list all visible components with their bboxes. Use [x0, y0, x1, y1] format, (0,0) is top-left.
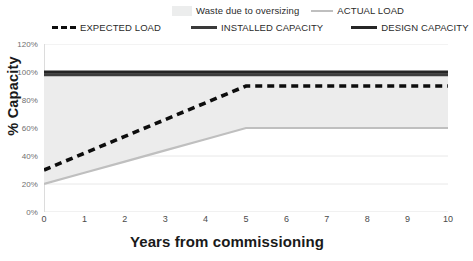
legend-label-actual-load: ACTUAL LOAD: [337, 6, 404, 16]
y-axis-tick-label: 0%: [26, 208, 38, 217]
solid-line-swatch-icon-installed: [191, 26, 217, 29]
legend-item-expected-load[interactable]: EXPECTED LOAD: [52, 23, 161, 33]
legend-label-design-capacity: DESIGN CAPACITY: [381, 23, 468, 33]
legend-label-installed-capacity: INSTALLED CAPACITY: [221, 23, 323, 33]
area-swatch-icon: [172, 6, 192, 16]
legend-item-actual-load[interactable]: ACTUAL LOAD: [311, 6, 404, 16]
y-axis-tick-labels: 120%100%80%60%40%20%0%: [0, 44, 42, 212]
x-axis-tick-label: 6: [284, 214, 289, 224]
chart-legend: Waste due to oversizing ACTUAL LOAD EXPE…: [0, 0, 454, 38]
x-axis-tick-label: 4: [203, 214, 208, 224]
legend-row-top: Waste due to oversizing ACTUAL LOAD: [0, 2, 473, 19]
x-axis-tick-label: 3: [163, 214, 168, 224]
x-axis-tick-label: 8: [365, 214, 370, 224]
plot-area: [44, 44, 448, 212]
x-axis-tick-label: 1: [82, 214, 87, 224]
solid-line-swatch-icon-design: [351, 26, 377, 29]
y-axis-tick-label: 80%: [22, 96, 38, 105]
y-axis-tick-label: 60%: [22, 124, 38, 133]
plot-svg: [44, 44, 448, 212]
x-axis-tick-label: 5: [243, 214, 248, 224]
y-axis-tick-label: 100%: [17, 68, 38, 77]
legend-label-expected-load: EXPECTED LOAD: [80, 23, 161, 33]
x-axis-tick-label: 9: [405, 214, 410, 224]
x-axis-tick-label: 7: [324, 214, 329, 224]
dashed-line-swatch-icon: [52, 26, 76, 29]
legend-label-waste: Waste due to oversizing: [196, 6, 299, 16]
light-line-swatch-icon: [311, 10, 333, 12]
x-axis-title: Years from commissioning: [0, 233, 454, 250]
series-layer: [44, 72, 448, 184]
x-axis-tick-label: 10: [443, 214, 453, 224]
x-axis-tick-labels: 012345678910: [44, 214, 448, 228]
y-axis-tick-label: 20%: [22, 180, 38, 189]
y-axis-tick-label: 120%: [17, 40, 38, 49]
x-axis-tick-label: 0: [41, 214, 46, 224]
legend-item-waste-due-to-oversizing[interactable]: Waste due to oversizing: [172, 6, 299, 16]
x-axis-tick-label: 2: [122, 214, 127, 224]
legend-item-installed-capacity[interactable]: INSTALLED CAPACITY: [191, 23, 323, 33]
legend-item-design-capacity[interactable]: DESIGN CAPACITY: [351, 23, 468, 33]
y-axis-tick-label: 40%: [22, 152, 38, 161]
legend-row-bottom: EXPECTED LOAD INSTALLED CAPACITY DESIGN …: [0, 19, 473, 36]
